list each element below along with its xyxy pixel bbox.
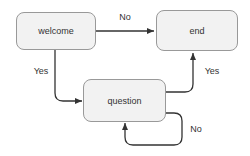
node-end-label: end bbox=[189, 26, 204, 36]
node-end: end bbox=[156, 10, 238, 51]
edge-label-question-self: No bbox=[189, 125, 203, 134]
node-welcome: welcome bbox=[16, 12, 96, 50]
edge-label-welcome-question: Yes bbox=[33, 67, 50, 76]
node-question-label: question bbox=[107, 96, 141, 106]
edge-question-to-end bbox=[166, 53, 193, 92]
node-question: question bbox=[83, 79, 166, 122]
edge-label-question-end: Yes bbox=[204, 67, 221, 76]
edge-label-welcome-end: No bbox=[118, 13, 132, 22]
edge-welcome-to-question bbox=[55, 50, 82, 101]
flowchart-canvas: welcome end question No Yes Yes No bbox=[0, 0, 250, 156]
node-welcome-label: welcome bbox=[38, 26, 74, 36]
